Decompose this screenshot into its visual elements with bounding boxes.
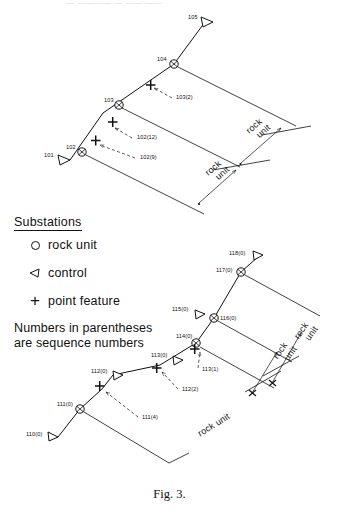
node-label-103: 103 <box>104 97 114 103</box>
legend-item-rock-unit: rock unit <box>22 231 184 259</box>
figure-page: — ———— — —— —— <box>0 0 339 518</box>
legend-note-line1: Numbers in parentheses <box>14 321 184 336</box>
node-label-102: 102 <box>66 144 76 150</box>
node-112-symbol <box>113 371 123 380</box>
node-label-112: 112(0) <box>91 368 107 374</box>
legend: Substations rock unit control + point fe… <box>14 212 184 351</box>
rock-unit-circle-icon <box>22 236 48 254</box>
lower-dimension-ticks <box>249 380 276 396</box>
node-115-symbol <box>195 310 205 319</box>
node-label-117: 117(0) <box>216 267 232 273</box>
point-feature-cross <box>91 136 101 146</box>
node-label-115: 115(0) <box>172 306 188 312</box>
node-105-symbol <box>201 17 213 27</box>
node-110-symbol <box>48 432 58 441</box>
node-label-105: 105 <box>188 14 198 20</box>
legend-note-line2: are sequence numbers <box>14 336 184 351</box>
upper-rock-unit-nodes <box>78 60 178 156</box>
legend-title: Substations <box>14 215 82 231</box>
point-feature-cross <box>146 80 156 90</box>
node-label-116: 116(0) <box>220 315 236 321</box>
node-label-101: 101 <box>44 152 54 158</box>
feature-label-102-12: 102(12) <box>137 134 157 140</box>
node-label-113: 113(0) <box>151 352 167 358</box>
node-label-118: 118(0) <box>229 250 245 256</box>
feature-label-103-2: 103(2) <box>176 94 193 100</box>
point-feature-plus-icon: + <box>22 296 48 306</box>
node-101-symbol <box>58 155 70 165</box>
control-triangle-icon <box>22 264 48 282</box>
point-feature-cross <box>95 381 105 391</box>
legend-item-label: control <box>48 266 87 280</box>
upper-extent-lines <box>86 67 311 214</box>
node-label-114: 114(0) <box>176 333 192 339</box>
node-label-104: 104 <box>157 56 167 62</box>
lower-dashed-leaders <box>106 352 200 417</box>
feature-label-111-4: 111(4) <box>142 414 158 420</box>
legend-item-control: control <box>22 259 184 287</box>
point-feature-cross <box>108 117 118 127</box>
legend-item-point-feature: + point feature <box>22 287 184 315</box>
node-label-111: 111(0) <box>57 401 73 407</box>
figure-caption: Fig. 3. <box>0 487 339 502</box>
node-118-symbol <box>253 251 263 260</box>
feature-label-112-2: 112(2) <box>182 386 198 392</box>
feature-label-113-1: 113(1) <box>202 366 218 372</box>
node-label-110: 110(0) <box>26 431 42 437</box>
node-113-symbol <box>173 356 183 365</box>
legend-item-label: point feature <box>48 294 120 308</box>
feature-label-102-9: 102(9) <box>140 154 157 160</box>
legend-item-label: rock unit <box>48 238 97 252</box>
